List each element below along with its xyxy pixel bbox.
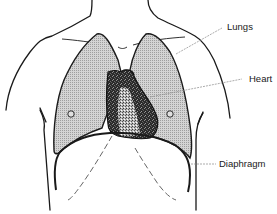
dashed-lines	[68, 136, 176, 200]
label-lungs: Lungs	[227, 22, 253, 32]
label-heart: Heart	[249, 74, 272, 84]
nipple-right	[68, 111, 74, 117]
leader-lungs	[176, 28, 222, 54]
diaphragm	[55, 133, 190, 192]
label-diaphragm: Diaphragm	[219, 159, 265, 169]
chest-diagram	[0, 0, 277, 214]
nipple-left	[167, 111, 173, 117]
